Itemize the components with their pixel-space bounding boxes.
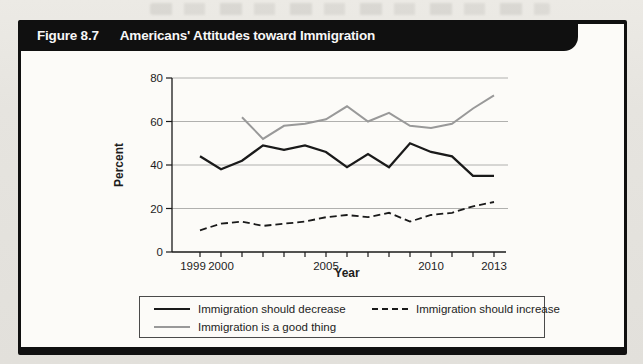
y-tick-label: 80 [150,72,163,84]
y-axis-title: Percent [112,143,126,187]
dashed-black-line-swatch [372,308,408,310]
legend-item-decrease: Immigration should decrease [154,303,372,315]
legend-label: Immigration should decrease [198,303,346,315]
x-tick-label: 1999 [180,260,206,272]
legend-label: Immigration is a good thing [198,321,336,333]
x-tick-label: 2010 [418,260,444,272]
legend-label: Immigration should increase [416,303,560,315]
page-ink-bleedthrough [150,3,550,15]
figure-box: Figure 8.7 Americans' Attitudes toward I… [18,20,627,355]
x-tick-label: 2000 [208,260,234,272]
y-tick-label: 40 [150,159,163,171]
solid-gray-line-swatch [154,326,190,328]
y-tick-label: 60 [150,116,163,128]
y-tick-label: 0 [157,246,163,258]
y-tick-label: 20 [150,203,163,215]
x-axis-title: Year [334,266,360,280]
legend-item-good-thing: Immigration is a good thing [154,321,372,333]
legend-item-increase: Immigration should increase [372,303,544,315]
series-line-immigration-should-increase [200,202,494,230]
x-tick-label: 2013 [481,260,507,272]
solid-black-line-swatch [154,308,190,310]
chart-legend: Immigration should decrease Immigration … [139,296,545,338]
series-line-immigration-should-decrease [200,143,494,176]
series-line-immigration-is-a-good-thing [242,95,494,138]
